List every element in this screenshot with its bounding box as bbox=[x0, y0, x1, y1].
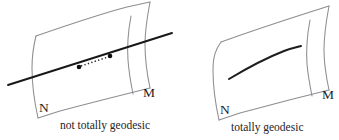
right-patch-right-edge bbox=[324, 6, 329, 90]
left-patch-top-edge bbox=[36, 2, 150, 36]
panel-right: N M totally geodesic bbox=[213, 6, 334, 134]
right-patch-top-edge bbox=[221, 6, 329, 42]
figure-canvas: N M not totally geodesic N M totally geo bbox=[0, 0, 339, 140]
left-caption: not totally geodesic bbox=[60, 119, 150, 132]
right-label-N: N bbox=[220, 102, 230, 117]
right-caption: totally geodesic bbox=[231, 121, 304, 134]
right-patch-inner-fold bbox=[307, 20, 312, 96]
left-label-N: N bbox=[39, 100, 49, 115]
left-patch-inner-fold bbox=[128, 16, 133, 94]
right-patch-bottom-edge bbox=[219, 90, 329, 120]
left-point-q bbox=[108, 54, 113, 59]
left-patch-right-edge bbox=[145, 2, 150, 88]
right-label-M: M bbox=[322, 87, 334, 102]
left-point-p bbox=[77, 65, 82, 70]
panel-left: N M not totally geodesic bbox=[8, 2, 172, 132]
left-label-M: M bbox=[143, 85, 155, 100]
geodesic-figure: N M not totally geodesic N M totally geo bbox=[0, 0, 339, 140]
right-submanifold-geodesic bbox=[229, 46, 301, 79]
